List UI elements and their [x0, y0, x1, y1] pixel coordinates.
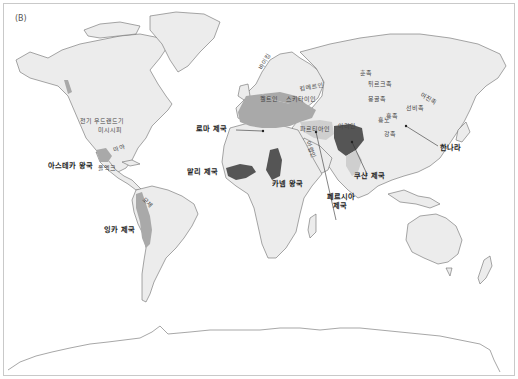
new-zealand	[478, 256, 492, 284]
pointer-roman-empire	[262, 130, 264, 132]
label-huns: 훈족	[360, 69, 372, 77]
label-scythians: 스키타이인	[286, 95, 316, 103]
label-aryans: 아리안	[338, 122, 356, 130]
label-early-woodland: 전기 우드랜드기	[80, 117, 124, 125]
pointer-han-dynasty	[405, 125, 407, 127]
label-aztec-kingdom: 아스테카 왕국	[48, 161, 93, 170]
southeast-asia-islands	[388, 190, 440, 208]
label-persian-empire-line2: 제국	[333, 201, 347, 210]
label-xiongnu-2: 흉족	[386, 112, 398, 120]
label-mongols: 몽골족	[368, 95, 386, 103]
label-parthians: 파르티아인	[300, 125, 330, 133]
madagascar	[308, 214, 316, 238]
label-roman-empire: 로마 제국	[196, 124, 227, 133]
world-map: (B) 전기 우드랜드기 미시시피 마야 올멕크 아스테카 왕국 모체 잉카 제…	[0, 0, 518, 379]
panel-label: (B)	[15, 14, 27, 23]
australia	[406, 214, 462, 264]
label-xianbei: 선비족	[406, 104, 424, 112]
label-inca-empire: 잉카 제국	[104, 225, 135, 234]
label-qiang: 강족	[384, 130, 396, 138]
label-kushan-empire: 쿠샨 제국	[354, 171, 385, 180]
greenland	[150, 12, 220, 72]
tasmania	[446, 268, 452, 276]
north-america	[16, 34, 172, 172]
label-celts: 켈트인	[260, 95, 278, 102]
label-olmec: 올멕크	[98, 164, 116, 172]
label-kanem-kingdom: 카넴 왕국	[272, 179, 303, 188]
label-mali-empire: 말리 제국	[187, 167, 218, 176]
label-mississippi: 미시시피	[98, 126, 122, 134]
label-turks: 튀르크족	[368, 80, 392, 88]
antarctica	[8, 326, 500, 372]
asia	[292, 34, 506, 198]
label-han-dynasty: 한나라	[440, 143, 461, 152]
label-persian-empire-line1: 페르시아	[327, 192, 355, 201]
pointer-kushan-empire	[351, 141, 353, 143]
